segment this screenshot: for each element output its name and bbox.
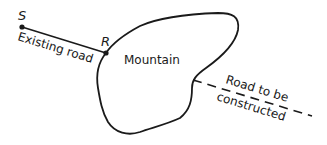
label-existing-road: Existing road xyxy=(16,29,95,65)
point-r-dot xyxy=(103,50,108,55)
label-mountain: Mountain xyxy=(124,53,180,67)
label-s: S xyxy=(18,8,26,23)
label-r: R xyxy=(101,34,110,49)
mountain-road-diagram: S R Existing road Mountain Road to be co… xyxy=(0,0,327,145)
mountain-outline xyxy=(97,13,238,134)
